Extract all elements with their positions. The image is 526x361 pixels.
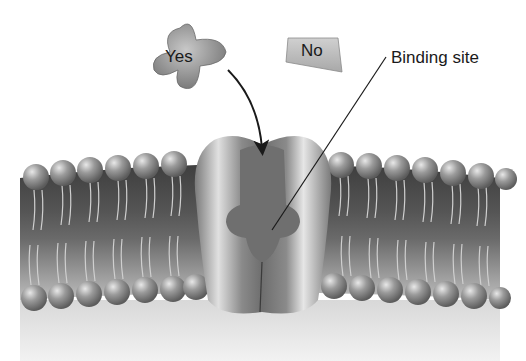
yes-label: Yes bbox=[165, 47, 193, 67]
binding-site-label: Binding site bbox=[391, 48, 479, 68]
receptor-diagram: Yes No Binding site bbox=[0, 0, 526, 361]
receptor-protein bbox=[195, 136, 331, 314]
no-label: No bbox=[301, 41, 323, 61]
